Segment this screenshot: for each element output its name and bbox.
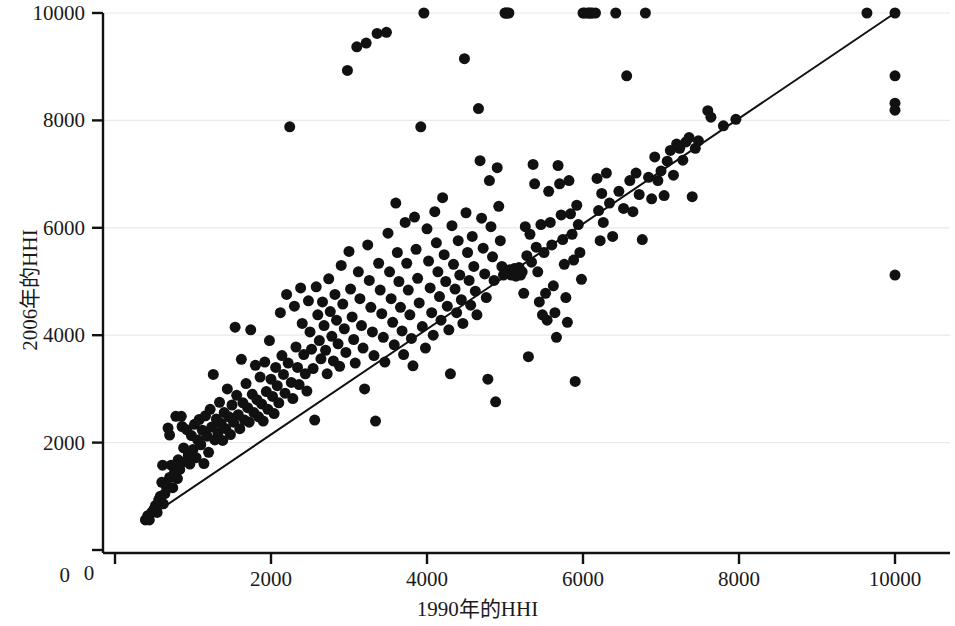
data-point — [423, 256, 434, 267]
data-point — [613, 186, 624, 197]
data-point — [259, 357, 270, 368]
data-point — [475, 155, 486, 166]
data-point — [281, 289, 292, 300]
data-point — [336, 260, 347, 271]
data-point — [381, 27, 392, 38]
data-point — [668, 170, 679, 181]
data-point — [400, 217, 411, 228]
data-point — [643, 172, 654, 183]
data-point — [311, 281, 322, 292]
data-point — [323, 273, 334, 284]
data-point — [677, 155, 688, 166]
data-point — [465, 300, 476, 311]
data-point — [331, 315, 342, 326]
data-point — [387, 317, 398, 328]
data-point — [356, 320, 367, 331]
data-point — [417, 321, 428, 332]
data-point — [429, 206, 440, 217]
data-point — [442, 301, 453, 312]
data-point — [258, 416, 269, 427]
data-point — [607, 231, 618, 242]
data-point — [334, 361, 345, 372]
axis-lines-group — [103, 13, 950, 553]
data-point — [470, 286, 481, 297]
data-point — [489, 275, 500, 286]
data-point — [339, 323, 350, 334]
data-point — [359, 383, 370, 394]
data-point — [481, 292, 492, 303]
data-point — [464, 275, 475, 286]
data-point — [383, 228, 394, 239]
plot-canvas — [0, 0, 955, 626]
data-point — [487, 251, 498, 262]
data-point — [548, 280, 559, 291]
data-point — [269, 408, 280, 419]
data-point — [284, 121, 295, 132]
data-point — [693, 135, 704, 146]
data-point — [364, 275, 375, 286]
data-point — [208, 369, 219, 380]
data-point — [306, 344, 317, 355]
data-point — [409, 212, 420, 223]
data-point — [411, 244, 422, 255]
data-point — [255, 372, 266, 383]
data-point — [631, 168, 642, 179]
data-point — [230, 322, 241, 333]
data-point — [518, 288, 529, 299]
data-point — [450, 284, 461, 295]
data-point — [598, 217, 609, 228]
data-point — [403, 285, 414, 296]
data-point — [445, 368, 456, 379]
data-point — [476, 213, 487, 224]
data-point — [485, 221, 496, 232]
data-point — [287, 393, 298, 404]
data-point — [493, 201, 504, 212]
data-point — [376, 308, 387, 319]
data-point — [309, 415, 320, 426]
data-point — [490, 396, 501, 407]
data-point — [227, 400, 238, 411]
data-point — [554, 178, 565, 189]
data-point — [482, 374, 493, 385]
data-point — [244, 417, 255, 428]
data-point — [283, 358, 294, 369]
data-point — [418, 8, 429, 19]
data-point — [308, 363, 319, 374]
data-point — [652, 175, 663, 186]
data-point — [446, 220, 457, 231]
data-point — [495, 235, 506, 246]
data-point — [559, 259, 570, 270]
data-point — [222, 383, 233, 394]
data-point — [319, 320, 330, 331]
data-point — [395, 302, 406, 313]
data-point — [407, 360, 418, 371]
data-point — [468, 261, 479, 272]
data-point — [241, 378, 252, 389]
data-point — [289, 301, 300, 312]
data-point — [214, 397, 225, 408]
data-point — [426, 307, 437, 318]
data-point — [529, 178, 540, 189]
data-point — [384, 266, 395, 277]
data-point — [890, 105, 901, 116]
data-point — [562, 317, 573, 328]
data-point — [320, 345, 331, 356]
data-point — [462, 247, 473, 258]
data-point — [314, 335, 325, 346]
data-point — [492, 162, 503, 173]
data-point — [659, 190, 670, 201]
data-point — [557, 234, 568, 245]
data-point — [415, 121, 426, 132]
data-point — [378, 332, 389, 343]
data-point — [730, 114, 741, 125]
x-tick-label: 0 — [84, 561, 95, 586]
data-point — [370, 416, 381, 427]
data-point — [523, 351, 534, 362]
data-point — [543, 186, 554, 197]
data-point — [890, 8, 901, 19]
data-point — [164, 430, 175, 441]
data-point — [340, 347, 351, 358]
data-point — [404, 309, 415, 320]
data-point — [535, 219, 546, 230]
data-point — [414, 297, 425, 308]
